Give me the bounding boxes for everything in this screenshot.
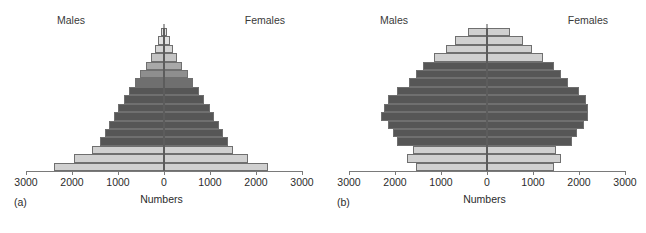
pyramid-bar-male <box>118 104 164 112</box>
pyramid-bar-female <box>164 129 223 137</box>
panel-b-caption: (b) <box>337 196 350 208</box>
axis-tick <box>118 171 119 175</box>
pyramid-bar-male <box>455 36 487 44</box>
pyramid-bar-male <box>446 45 487 53</box>
axis-tick <box>164 171 165 175</box>
pyramid-bar-male <box>416 70 487 78</box>
pyramid-bar-female <box>487 95 586 103</box>
axis-tick-label: 3000 <box>290 176 313 188</box>
axis-tick-label: 0 <box>484 176 490 188</box>
panel-b-plot-area <box>349 28 625 171</box>
axis-tick-label: 2000 <box>383 176 406 188</box>
pyramid-bar-female <box>487 28 510 36</box>
axis-tick <box>625 171 626 175</box>
axis-tick-label: 1000 <box>429 176 452 188</box>
axis-tick <box>26 171 27 175</box>
pyramid-bar-male <box>388 121 487 129</box>
pyramid-bar-male <box>114 112 164 120</box>
pyramid-bar-female <box>487 163 554 171</box>
pyramid-bar-female <box>164 95 204 103</box>
axis-tick-label: 1000 <box>521 176 544 188</box>
pyramid-bar-female <box>487 87 579 95</box>
pyramid-bar-female <box>164 36 170 44</box>
pyramid-bar-male <box>135 78 164 86</box>
axis-tick <box>72 171 73 175</box>
pyramid-bar-female <box>487 70 561 78</box>
pyramid-bar-male <box>434 53 487 61</box>
panel-b-tick-labels: 3000200010000100020003000 <box>323 176 646 190</box>
pyramid-bar-female <box>487 78 568 86</box>
pyramid-bar-female <box>164 104 210 112</box>
panel-b-axis-title: Numbers <box>323 193 646 205</box>
pyramid-bar-male <box>381 112 487 120</box>
axis-tick <box>579 171 580 175</box>
pyramid-bar-male <box>146 62 164 70</box>
axis-tick-label: 1000 <box>198 176 221 188</box>
axis-tick-label: 3000 <box>613 176 636 188</box>
axis-tick <box>302 171 303 175</box>
axis-tick <box>256 171 257 175</box>
pyramid-bar-female <box>487 146 556 154</box>
pyramid-bar-female <box>164 87 199 95</box>
panel-a-caption: (a) <box>14 196 27 208</box>
pyramid-bar-male <box>468 28 487 36</box>
pyramid-bar-female <box>164 53 177 61</box>
panel-a-females-label: Females <box>245 14 285 26</box>
pyramid-bar-female <box>164 70 188 78</box>
panel-a-plot-area <box>26 28 302 171</box>
axis-tick-label: 2000 <box>244 176 267 188</box>
panel-a-males-label: Males <box>57 14 85 26</box>
pyramid-bar-female <box>487 104 588 112</box>
panel-b-x-axis <box>349 171 625 172</box>
pyramid-bar-female <box>487 129 577 137</box>
pyramid-bar-female <box>487 36 523 44</box>
axis-tick-label: 2000 <box>567 176 590 188</box>
pyramid-bar-female <box>164 45 173 53</box>
pyramid-bar-female <box>164 78 193 86</box>
pyramid-bar-female <box>164 137 228 145</box>
pyramid-bar-male <box>151 53 164 61</box>
axis-tick-label: 2000 <box>60 176 83 188</box>
pyramid-bar-female <box>164 163 268 171</box>
population-pyramid-figure: Males Females 3000200010000100020003000 … <box>0 0 646 233</box>
axis-tick <box>487 171 488 175</box>
axis-tick <box>395 171 396 175</box>
panel-b-males-label: Males <box>380 14 408 26</box>
pyramid-bar-female <box>487 154 561 162</box>
pyramid-bar-female <box>487 137 572 145</box>
pyramid-bar-male <box>74 154 164 162</box>
pyramid-bar-female <box>487 45 532 53</box>
pyramid-bar-male <box>397 137 487 145</box>
axis-tick-label: 3000 <box>14 176 37 188</box>
pyramid-bar-female <box>164 154 248 162</box>
pyramid-bar-male <box>105 129 164 137</box>
panel-a-tick-labels: 3000200010000100020003000 <box>0 176 323 190</box>
pyramid-bar-female <box>487 112 588 120</box>
pyramid-bar-male <box>413 146 487 154</box>
pyramid-bar-male <box>100 137 164 145</box>
panel-b: Males Females 3000200010000100020003000 … <box>323 0 646 233</box>
pyramid-bar-male <box>54 163 164 171</box>
pyramid-bar-male <box>109 121 164 129</box>
pyramid-bar-female <box>487 121 584 129</box>
pyramid-bar-male <box>393 129 487 137</box>
axis-tick <box>441 171 442 175</box>
pyramid-bar-male <box>388 95 487 103</box>
panel-b-center-axis-line <box>487 24 488 171</box>
pyramid-bar-male <box>416 163 487 171</box>
pyramid-bar-male <box>384 104 488 112</box>
panel-a-axis-title: Numbers <box>0 193 323 205</box>
panel-a-x-axis <box>26 171 302 172</box>
axis-tick-label: 0 <box>161 176 167 188</box>
pyramid-bar-male <box>407 154 488 162</box>
pyramid-bar-female <box>487 62 554 70</box>
axis-tick <box>210 171 211 175</box>
pyramid-bar-male <box>92 146 164 154</box>
pyramid-bar-female <box>164 62 182 70</box>
pyramid-bar-male <box>423 62 487 70</box>
pyramid-bar-male <box>140 70 164 78</box>
pyramid-bar-female <box>164 146 233 154</box>
axis-tick <box>533 171 534 175</box>
panel-a: Males Females 3000200010000100020003000 … <box>0 0 323 233</box>
pyramid-bar-male <box>409 78 487 86</box>
